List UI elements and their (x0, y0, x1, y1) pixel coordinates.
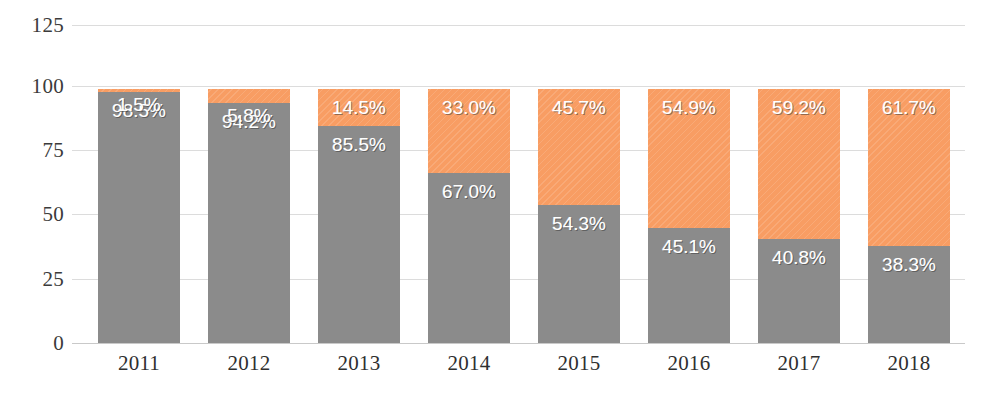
bar-group[interactable]: 67.0%33.0% (428, 89, 510, 343)
bar-group[interactable]: 40.8%59.2% (758, 89, 840, 343)
bar-value-label-orange: 14.5% (318, 97, 400, 119)
bar-segment-gray[interactable]: 38.3% (868, 246, 950, 343)
y-tick-label-25: 25 (8, 269, 64, 290)
x-tick-label-2014: 2014 (428, 352, 510, 375)
stacked-bar-chart: 125 100 75 50 25 0 98.5%1.5%94.2%5.8%85.… (0, 0, 1002, 406)
bar-value-label-orange: 45.7% (538, 97, 620, 119)
x-tick-label-2015: 2015 (538, 352, 620, 375)
bar-segment-gray[interactable]: 67.0% (428, 173, 510, 343)
bar-segment-gray[interactable]: 45.1% (648, 228, 730, 343)
bar-segment-gray[interactable]: 94.2% (208, 103, 290, 343)
bar-segment-gray[interactable]: 98.5% (98, 92, 180, 343)
bar-value-label-orange: 59.2% (758, 97, 840, 119)
bar-group[interactable]: 54.3%45.7% (538, 89, 620, 343)
bar-segment-orange[interactable]: 59.2% (758, 89, 840, 240)
bar-value-label-gray: 54.3% (538, 213, 620, 235)
bar-value-label-gray: 98.5% (98, 100, 180, 122)
bar-value-label-gray: 40.8% (758, 247, 840, 269)
bar-value-label-gray: 67.0% (428, 181, 510, 203)
bar-segment-gray[interactable]: 40.8% (758, 239, 840, 343)
x-tick-label-2016: 2016 (648, 352, 730, 375)
y-tick-label-50: 50 (8, 204, 64, 225)
bar-segment-orange[interactable]: 1.5% (98, 89, 180, 93)
x-tick-label-2011: 2011 (98, 352, 180, 375)
bar-group[interactable]: 85.5%14.5% (318, 89, 400, 343)
bar-segment-orange[interactable]: 45.7% (538, 89, 620, 205)
bar-group[interactable]: 98.5%1.5% (98, 89, 180, 343)
x-tick-label-2012: 2012 (208, 352, 290, 375)
y-axis: 125 100 75 50 25 0 (0, 25, 64, 343)
bar-value-label-gray: 94.2% (208, 111, 290, 133)
bar-value-label-orange: 33.0% (428, 97, 510, 119)
y-tick-label-125: 125 (8, 15, 64, 36)
bar-value-label-gray: 85.5% (318, 134, 400, 156)
bar-value-label-gray: 38.3% (868, 254, 950, 276)
bar-value-label-orange: 61.7% (868, 97, 950, 119)
x-tick-label-2017: 2017 (758, 352, 840, 375)
y-tick-label-100: 100 (8, 76, 64, 97)
bar-group[interactable]: 45.1%54.9% (648, 89, 730, 343)
bar-value-label-gray: 45.1% (648, 236, 730, 258)
bar-segment-orange[interactable]: 33.0% (428, 89, 510, 173)
bar-segment-orange[interactable]: 61.7% (868, 89, 950, 246)
bar-group[interactable]: 94.2%5.8% (208, 89, 290, 343)
x-tick-label-2013: 2013 (318, 352, 400, 375)
bar-segment-orange[interactable]: 14.5% (318, 89, 400, 126)
y-tick-label-75: 75 (8, 140, 64, 161)
bar-group[interactable]: 38.3%61.7% (868, 89, 950, 343)
plot-area: 98.5%1.5%94.2%5.8%85.5%14.5%67.0%33.0%54… (72, 25, 965, 343)
bar-segment-gray[interactable]: 85.5% (318, 126, 400, 344)
x-axis: 20112012201320142015201620172018 (72, 352, 965, 392)
bar-segment-orange[interactable]: 54.9% (648, 89, 730, 229)
bar-segment-orange[interactable]: 5.8% (208, 89, 290, 104)
y-tick-label-0: 0 (8, 333, 64, 354)
axis-baseline (72, 343, 965, 344)
x-tick-label-2018: 2018 (868, 352, 950, 375)
bars-layer: 98.5%1.5%94.2%5.8%85.5%14.5%67.0%33.0%54… (72, 25, 965, 343)
bar-segment-gray[interactable]: 54.3% (538, 205, 620, 343)
bar-value-label-orange: 54.9% (648, 97, 730, 119)
